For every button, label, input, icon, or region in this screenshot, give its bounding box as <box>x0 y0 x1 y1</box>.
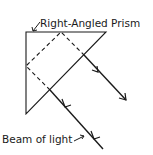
outgoing-beam <box>84 55 126 100</box>
beam-label: Beam of light <box>2 133 72 145</box>
prism-label: Right-Angled Prism <box>40 17 140 29</box>
right-angled-prism <box>26 32 106 114</box>
internal-beam-path <box>26 32 84 90</box>
prism-diagram: Right-Angled Prism Beam of light <box>0 0 153 155</box>
